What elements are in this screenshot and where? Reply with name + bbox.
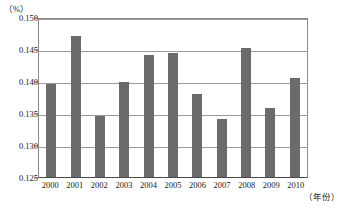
plot-area — [38, 18, 308, 178]
bar-slot — [258, 19, 282, 177]
bar — [119, 82, 129, 177]
x-axis-tick-label: 2003 — [112, 180, 137, 190]
x-axis-tick-label: 2000 — [38, 180, 63, 190]
bar — [168, 53, 178, 177]
bar-slot — [136, 19, 160, 177]
bar-slot — [185, 19, 209, 177]
x-axis-tick-label: 2002 — [87, 180, 112, 190]
bar-slot — [39, 19, 63, 177]
bar-chart: （%） （年份） 0.1500.1450.1400.1350.1300.125 … — [0, 0, 360, 209]
bar-slot — [161, 19, 185, 177]
x-axis-tick-label: 2008 — [234, 180, 259, 190]
x-axis-tick-label: 2009 — [259, 180, 284, 190]
bar-slot — [210, 19, 234, 177]
bar-slot — [63, 19, 87, 177]
x-axis-tick-labels: 2000200120022003200420052006200720082009… — [38, 180, 308, 190]
x-axis-tick-label: 2010 — [283, 180, 308, 190]
bar — [144, 55, 154, 177]
bar — [192, 94, 202, 177]
bar — [71, 36, 81, 177]
bar-slot — [88, 19, 112, 177]
bar-slot — [234, 19, 258, 177]
bar — [46, 84, 56, 177]
x-axis-tick-label: 2006 — [185, 180, 210, 190]
bar-slot — [283, 19, 307, 177]
bar — [290, 78, 300, 177]
bar — [265, 108, 275, 177]
x-axis-unit-label: （年份） — [304, 190, 340, 202]
bar — [241, 48, 251, 177]
x-axis-tick-label: 2001 — [63, 180, 88, 190]
x-axis-tick-label: 2005 — [161, 180, 186, 190]
x-axis-tick-label: 2004 — [136, 180, 161, 190]
x-axis-tick-label: 2007 — [210, 180, 235, 190]
bar — [217, 119, 227, 177]
bar-slot — [112, 19, 136, 177]
bar — [95, 116, 105, 177]
bar-series — [39, 19, 307, 177]
